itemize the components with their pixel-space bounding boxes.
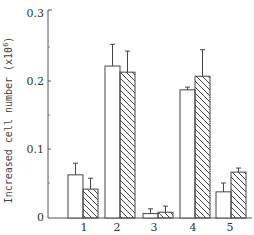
y-axis-label: Increased cell number (x106) bbox=[2, 37, 14, 204]
x-tick-label: 1 bbox=[81, 221, 88, 234]
x-tick-label: 2 bbox=[114, 221, 121, 234]
bar-group-2-open bbox=[105, 44, 120, 218]
bar bbox=[195, 76, 210, 218]
bar-group-3-open bbox=[143, 209, 158, 218]
bar bbox=[83, 189, 98, 218]
bar bbox=[143, 214, 158, 218]
x-tick-label: 4 bbox=[190, 221, 197, 234]
bar-group-4-open bbox=[180, 87, 195, 218]
bar-group-5-hatched bbox=[231, 168, 246, 218]
y-tick-label: 0.1 bbox=[27, 143, 45, 156]
bar bbox=[105, 66, 120, 218]
y-ticks: 00.10.20.3 bbox=[27, 7, 52, 224]
bars bbox=[68, 44, 246, 218]
y-tick-label: 0.3 bbox=[27, 7, 45, 20]
bar-group-4-hatched bbox=[195, 50, 210, 218]
y-tick-label: 0 bbox=[37, 211, 44, 224]
bar-group-5-open bbox=[216, 183, 231, 218]
bar-chart: 00.10.20.3 12345 Increased cell number (… bbox=[0, 0, 254, 235]
bar bbox=[216, 192, 231, 218]
bar bbox=[180, 90, 195, 218]
x-ticks: 12345 bbox=[81, 221, 234, 234]
bar-group-3-hatched bbox=[158, 206, 173, 218]
bar bbox=[231, 172, 246, 218]
bar-group-1-open bbox=[68, 163, 83, 218]
bar bbox=[120, 72, 135, 218]
x-tick-label: 3 bbox=[151, 221, 158, 234]
bar-group-2-hatched bbox=[120, 51, 135, 218]
y-tick-label: 0.2 bbox=[27, 75, 45, 88]
bar bbox=[158, 212, 173, 218]
bar-group-1-hatched bbox=[83, 178, 98, 218]
bar bbox=[68, 175, 83, 218]
x-tick-label: 5 bbox=[227, 221, 234, 234]
